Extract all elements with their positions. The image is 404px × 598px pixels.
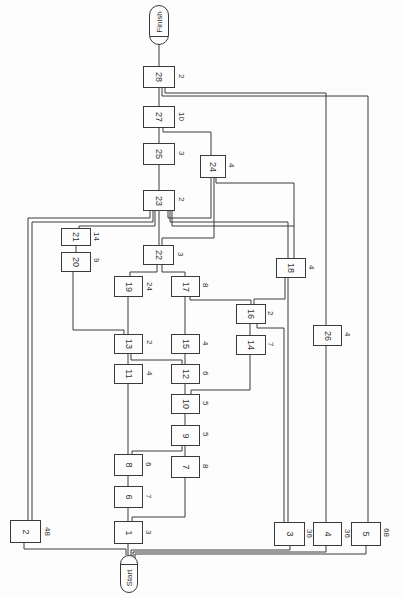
activity-node-14: 14	[236, 335, 266, 355]
start-label: Start	[125, 569, 134, 586]
activity-node-16: 16	[236, 304, 266, 324]
duration-5: 68	[382, 528, 391, 537]
activity-node-27: 27	[143, 106, 175, 128]
duration-18: 4	[307, 265, 316, 269]
activity-node-28: 28	[143, 66, 175, 88]
activity-node-10: 10	[171, 394, 200, 414]
duration-26: 4	[343, 332, 352, 336]
connector-lines	[0, 0, 404, 598]
duration-9: 5	[201, 432, 210, 436]
activity-node-11: 11	[114, 364, 143, 384]
duration-7: 8	[201, 464, 210, 468]
duration-21: 14	[92, 232, 101, 241]
duration-20: 9	[92, 258, 101, 262]
activity-node-7: 7	[171, 456, 200, 478]
activity-node-1: 1	[114, 521, 143, 544]
duration-27: 10	[177, 112, 186, 121]
duration-23: 2	[177, 197, 186, 201]
activity-node-20: 20	[61, 252, 91, 272]
activity-node-23: 23	[143, 190, 175, 211]
activity-node-6: 6	[114, 486, 143, 508]
activity-node-2: 2	[10, 520, 41, 543]
activity-node-17: 17	[171, 276, 200, 297]
duration-1: 3	[144, 530, 153, 534]
duration-11: 4	[145, 371, 154, 375]
duration-12: 6	[201, 371, 210, 375]
duration-8: 6	[144, 462, 153, 466]
duration-24: 4	[227, 163, 236, 167]
activity-node-22: 22	[143, 245, 174, 265]
activity-network-diagram: Finish Start 28 2 27 10 25 3 24 4 23 2 2…	[0, 0, 404, 598]
activity-node-9: 9	[171, 425, 200, 446]
duration-15: 4	[201, 341, 210, 345]
duration-13: 2	[145, 340, 154, 344]
activity-node-3: 3	[274, 522, 305, 546]
duration-16: 2	[266, 311, 275, 315]
activity-node-8: 8	[114, 454, 143, 476]
activity-node-4: 4	[313, 522, 342, 546]
start-terminal: Start	[120, 555, 138, 593]
activity-node-19: 19	[114, 276, 143, 297]
duration-19: 24	[145, 282, 154, 291]
activity-node-15: 15	[171, 334, 200, 354]
duration-10: 5	[201, 401, 210, 405]
duration-22: 3	[176, 252, 185, 256]
duration-25: 3	[177, 151, 186, 155]
duration-6: 7	[144, 494, 153, 498]
finish-terminal: Finish	[149, 5, 169, 45]
activity-node-26: 26	[313, 325, 342, 346]
duration-2: 48	[43, 527, 52, 536]
duration-28: 2	[177, 74, 186, 78]
activity-node-25: 25	[143, 143, 175, 165]
activity-node-13: 13	[114, 334, 143, 354]
activity-node-24: 24	[200, 155, 226, 178]
finish-label: Finish	[155, 11, 164, 32]
duration-14: 7	[266, 342, 275, 346]
activity-node-12: 12	[171, 364, 200, 384]
duration-17: 8	[201, 283, 210, 287]
activity-node-5: 5	[351, 522, 381, 546]
activity-node-21: 21	[61, 228, 91, 246]
activity-node-18: 18	[276, 258, 306, 278]
